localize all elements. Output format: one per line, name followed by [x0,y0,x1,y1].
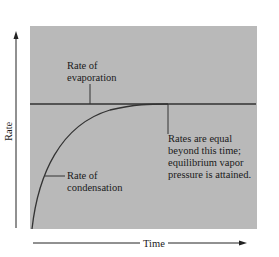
evap-label-line2: evaporation [67,72,117,84]
x-axis-arrow-icon [239,241,247,246]
cond-label-line2: condensation [67,182,122,194]
eq-label-line3: equilibrium vapor [168,157,251,169]
y-axis-label: Rate [3,120,14,143]
eq-label-line1: Rates are equal [168,133,251,145]
eq-label-line4: pressure is attained. [168,169,251,181]
cond-label-line1: Rate of [67,170,122,182]
condensation-annotation: Rate of condensation [67,170,122,194]
condensation-curve [32,104,168,229]
x-axis-label: Time [140,238,168,250]
chart-lines [0,0,279,257]
evaporation-annotation: Rate of evaporation [67,60,117,84]
equilibrium-annotation: Rates are equal beyond this time; equili… [168,133,251,181]
eq-label-line2: beyond this time; [168,145,251,157]
evap-label-line1: Rate of [67,60,117,72]
y-axis-arrow-icon [14,31,19,39]
